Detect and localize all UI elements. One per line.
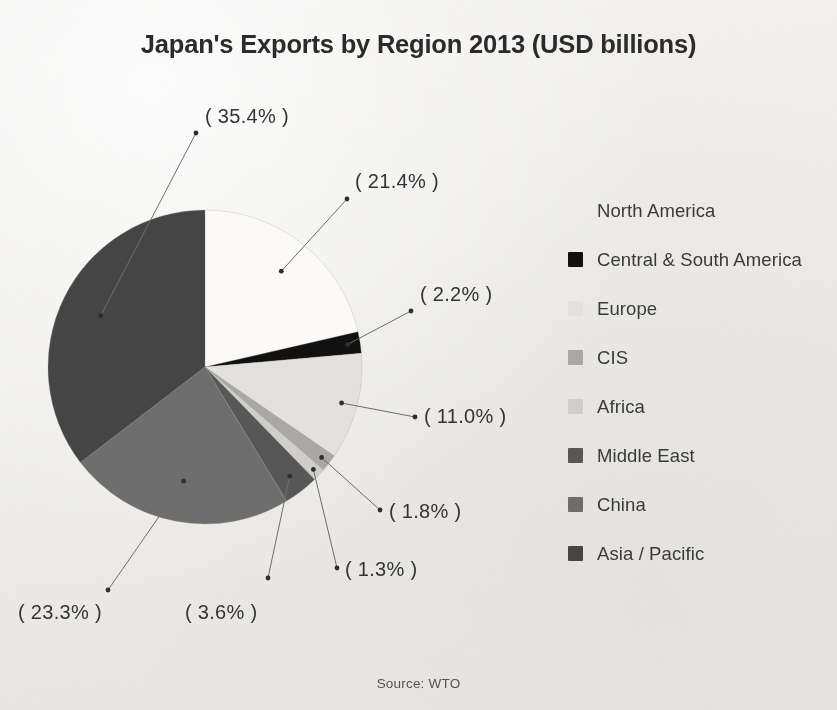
leader-dot	[311, 467, 316, 472]
legend-label: North America	[597, 200, 716, 222]
legend: North AmericaCentral & South AmericaEuro…	[568, 186, 836, 578]
leader-dot	[106, 588, 111, 593]
legend-item[interactable]: Central & South America	[568, 235, 836, 284]
leader-dot	[345, 342, 350, 347]
slice-percentage-label: ( 3.6% )	[185, 601, 257, 624]
leader-dot	[98, 313, 103, 318]
chart-page: Japan's Exports by Region 2013 (USD bill…	[0, 0, 837, 710]
leader-dot	[378, 508, 383, 513]
leader-dot	[181, 479, 186, 484]
legend-item[interactable]: Middle East	[568, 431, 836, 480]
leader-dot	[266, 576, 271, 581]
legend-label: China	[597, 494, 646, 516]
slice-percentage-label: ( 11.0% )	[424, 405, 506, 428]
leader-line	[322, 458, 380, 511]
leader-dot	[413, 415, 418, 420]
leader-dot	[279, 269, 284, 274]
leader-dot	[335, 566, 340, 571]
leader-dot	[345, 197, 350, 202]
legend-label: Europe	[597, 298, 657, 320]
legend-swatch	[568, 497, 583, 512]
leader-dot	[339, 401, 344, 406]
leader-dot	[287, 474, 292, 479]
slice-percentage-label: ( 35.4% )	[205, 105, 289, 128]
slice-percentage-label: ( 1.3% )	[345, 558, 417, 581]
legend-label: Central & South America	[597, 249, 802, 271]
legend-label: Middle East	[597, 445, 695, 467]
legend-label: Asia / Pacific	[597, 543, 704, 565]
legend-item[interactable]: China	[568, 480, 836, 529]
slice-percentage-label: ( 21.4% )	[355, 170, 439, 193]
leader-dot	[409, 309, 414, 314]
legend-swatch	[568, 301, 583, 316]
slice-percentage-label: ( 1.8% )	[389, 500, 461, 523]
legend-swatch	[568, 546, 583, 561]
legend-swatch	[568, 203, 583, 218]
leader-dot	[319, 455, 324, 460]
legend-item[interactable]: Europe	[568, 284, 836, 333]
legend-label: Africa	[597, 396, 645, 418]
source-note: Source: WTO	[0, 676, 837, 691]
legend-swatch	[568, 252, 583, 267]
slice-percentage-label: ( 23.3% )	[18, 601, 102, 624]
leader-dot	[194, 131, 199, 136]
legend-item[interactable]: Africa	[568, 382, 836, 431]
legend-item[interactable]: CIS	[568, 333, 836, 382]
legend-swatch	[568, 350, 583, 365]
slice-percentage-label: ( 2.2% )	[420, 283, 492, 306]
leader-line	[313, 469, 337, 568]
legend-item[interactable]: Asia / Pacific	[568, 529, 836, 578]
legend-swatch	[568, 399, 583, 414]
legend-item[interactable]: North America	[568, 186, 836, 235]
legend-label: CIS	[597, 347, 628, 369]
legend-swatch	[568, 448, 583, 463]
